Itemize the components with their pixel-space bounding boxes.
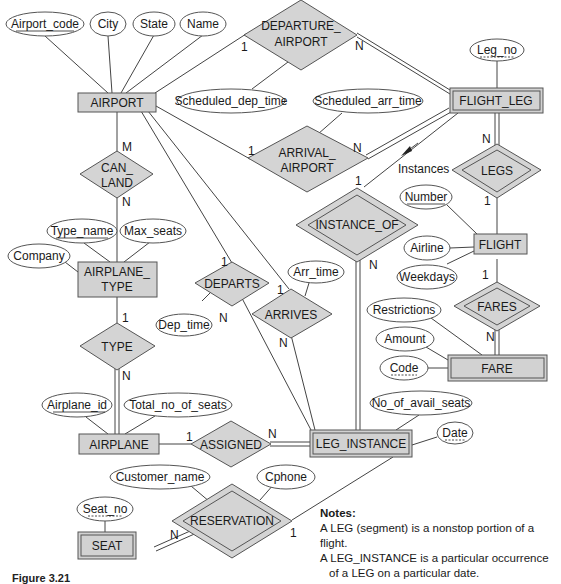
attribute-arr-time: Arr_time bbox=[288, 261, 344, 283]
svg-text:DEPARTS: DEPARTS bbox=[204, 277, 260, 291]
svg-text:AIRPLANE_: AIRPLANE_ bbox=[84, 265, 150, 279]
instances-annotation: Instances bbox=[398, 162, 449, 176]
svg-text:N: N bbox=[268, 427, 277, 441]
svg-text:No_of_avail_seats: No_of_avail_seats bbox=[372, 396, 471, 410]
svg-text:Date: Date bbox=[442, 426, 468, 440]
attribute-type-name: Type_name bbox=[47, 219, 117, 243]
svg-text:LEGS: LEGS bbox=[481, 164, 513, 178]
attribute-scheduled-dep-time: Scheduled_dep_time bbox=[175, 89, 288, 113]
svg-text:DEPARTURE_: DEPARTURE_ bbox=[261, 19, 341, 33]
svg-text:FARE: FARE bbox=[481, 362, 512, 376]
svg-text:Seat_no: Seat_no bbox=[83, 502, 128, 516]
svg-text:1: 1 bbox=[355, 174, 362, 188]
svg-text:AIRPORT: AIRPORT bbox=[280, 161, 334, 175]
entity-flight: FLIGHT bbox=[474, 234, 527, 254]
attribute-total-no-of-seats: Total_no_of_seats bbox=[124, 393, 232, 417]
svg-text:Dep_time: Dep_time bbox=[158, 318, 210, 332]
attribute-seat-no: Seat_no bbox=[77, 497, 133, 521]
svg-text:Scheduled_arr_time: Scheduled_arr_time bbox=[314, 94, 422, 108]
relationship-fares: FARES bbox=[454, 282, 540, 331]
svg-text:TYPE: TYPE bbox=[101, 280, 132, 294]
svg-text:N: N bbox=[369, 258, 378, 272]
svg-text:1: 1 bbox=[186, 430, 193, 444]
svg-text:Arr_time: Arr_time bbox=[293, 265, 339, 279]
svg-text:Amount: Amount bbox=[384, 332, 426, 346]
svg-text:Airplane_id: Airplane_id bbox=[47, 398, 107, 412]
entity-fare: FARE bbox=[448, 355, 547, 381]
svg-text:Weekdays: Weekdays bbox=[399, 270, 455, 284]
svg-text:INSTANCE_OF: INSTANCE_OF bbox=[315, 218, 398, 232]
attribute-no-of-avail-seats: No_of_avail_seats bbox=[370, 391, 472, 415]
relationship-departure-airport: DEPARTURE_ AIRPORT bbox=[244, 0, 357, 70]
svg-text:M: M bbox=[122, 140, 132, 154]
svg-text:FARES: FARES bbox=[477, 300, 516, 314]
svg-text:TYPE: TYPE bbox=[101, 340, 132, 354]
svg-text:Restrictions: Restrictions bbox=[373, 303, 436, 317]
attribute-dep-time: Dep_time bbox=[156, 314, 212, 336]
svg-text:Name: Name bbox=[187, 17, 219, 31]
relationship-legs: LEGS bbox=[452, 144, 541, 198]
relationship-arrival-airport: ARRIVAL_ AIRPORT bbox=[248, 126, 368, 192]
svg-text:N: N bbox=[355, 39, 364, 53]
svg-text:N: N bbox=[486, 330, 495, 344]
notes-line-3: of a LEG on a particular date. bbox=[320, 566, 561, 581]
attribute-customer-name: Customer_name bbox=[110, 465, 210, 489]
svg-text:1: 1 bbox=[484, 194, 491, 208]
svg-text:Max_seats: Max_seats bbox=[124, 224, 182, 238]
attribute-airline: Airline bbox=[404, 236, 450, 260]
attribute-number: Number bbox=[400, 185, 452, 209]
attribute-city: City bbox=[90, 12, 126, 36]
attribute-code: Code bbox=[380, 356, 428, 380]
svg-text:N: N bbox=[170, 528, 179, 542]
entity-airplane: AIRPLANE bbox=[79, 434, 159, 454]
svg-text:N: N bbox=[219, 311, 228, 325]
entity-airport: AIRPORT bbox=[78, 93, 156, 112]
svg-text:ARRIVES: ARRIVES bbox=[265, 308, 318, 322]
entity-flight-leg: FLIGHT_LEG bbox=[450, 88, 543, 113]
svg-text:Number: Number bbox=[405, 190, 448, 204]
svg-text:AIRPLANE: AIRPLANE bbox=[89, 438, 148, 452]
attribute-name: Name bbox=[180, 12, 226, 36]
attribute-weekdays: Weekdays bbox=[397, 265, 457, 289]
svg-text:N: N bbox=[279, 336, 288, 350]
figure-caption: Figure 3.21 bbox=[12, 572, 70, 584]
notes-title: Notes: bbox=[320, 506, 561, 521]
relationship-departs: DEPARTS bbox=[195, 262, 269, 306]
notes-block: Notes: A LEG (segment) is a nonstop port… bbox=[320, 506, 561, 581]
attribute-restrictions: Restrictions bbox=[367, 298, 441, 322]
svg-text:N: N bbox=[353, 141, 362, 155]
relationship-reservation: RESERVATION bbox=[172, 484, 292, 558]
svg-text:AIRPORT: AIRPORT bbox=[90, 96, 144, 110]
svg-text:ASSIGNED: ASSIGNED bbox=[200, 438, 262, 452]
entity-airplane-type: AIRPLANE_ TYPE bbox=[78, 262, 157, 297]
svg-text:1: 1 bbox=[277, 283, 284, 297]
svg-text:1: 1 bbox=[241, 40, 248, 54]
svg-text:FLIGHT: FLIGHT bbox=[479, 238, 522, 252]
svg-text:RESERVATION: RESERVATION bbox=[190, 514, 274, 528]
relationship-can-land: CAN_ LAND bbox=[80, 151, 153, 198]
svg-text:Leg_no: Leg_no bbox=[477, 43, 517, 57]
svg-text:CAN_: CAN_ bbox=[101, 161, 133, 175]
attribute-airplane-id: Airplane_id bbox=[42, 393, 112, 417]
entity-seat: SEAT bbox=[78, 532, 136, 559]
attribute-scheduled-arr-time: Scheduled_arr_time bbox=[313, 89, 423, 113]
svg-text:1: 1 bbox=[248, 144, 255, 158]
svg-text:AIRPORT: AIRPORT bbox=[274, 35, 328, 49]
svg-text:1: 1 bbox=[122, 311, 129, 325]
svg-text:ARRIVAL_: ARRIVAL_ bbox=[278, 146, 335, 160]
svg-text:FLIGHT_LEG: FLIGHT_LEG bbox=[459, 94, 532, 108]
svg-text:Code: Code bbox=[390, 361, 419, 375]
svg-text:SEAT: SEAT bbox=[92, 539, 123, 553]
svg-text:Company: Company bbox=[13, 249, 64, 263]
svg-text:Airline: Airline bbox=[410, 241, 444, 255]
svg-text:LAND: LAND bbox=[101, 176, 133, 190]
svg-text:Airport_code: Airport_code bbox=[11, 17, 79, 31]
svg-text:1: 1 bbox=[221, 255, 228, 269]
attribute-company: Company bbox=[8, 244, 70, 268]
svg-text:State: State bbox=[140, 17, 168, 31]
svg-text:City: City bbox=[98, 17, 119, 31]
attribute-amount: Amount bbox=[376, 327, 434, 351]
svg-text:Cphone: Cphone bbox=[265, 470, 307, 484]
attribute-max-seats: Max_seats bbox=[120, 219, 186, 243]
notes-line-1: A LEG (segment) is a nonstop portion of … bbox=[320, 521, 561, 551]
